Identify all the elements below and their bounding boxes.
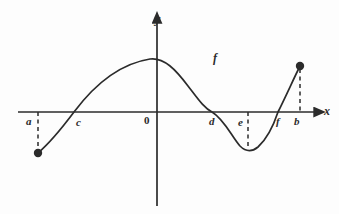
- x-axis-label: x: [324, 105, 330, 117]
- dashed-guides-group: [38, 69, 300, 150]
- x-mark-label-f: f: [276, 116, 280, 127]
- y-axis-label: y: [155, 13, 160, 25]
- x-mark-label-a: a: [26, 116, 32, 127]
- graph-canvas: [0, 0, 339, 214]
- x-mark-label-e: e: [238, 117, 243, 128]
- curve-f: [38, 59, 300, 153]
- x-mark-label-d: d: [209, 116, 215, 127]
- function-graph-figure: y x 0 f acdefb: [0, 0, 339, 214]
- endpoint-dots-group: [34, 62, 304, 157]
- x-mark-label-b: b: [294, 116, 300, 127]
- endpoint-dot-b: [296, 62, 304, 70]
- curve-label: f: [213, 52, 217, 64]
- endpoint-dot-a: [34, 149, 42, 157]
- x-mark-label-c: c: [76, 117, 81, 128]
- origin-label: 0: [144, 115, 150, 126]
